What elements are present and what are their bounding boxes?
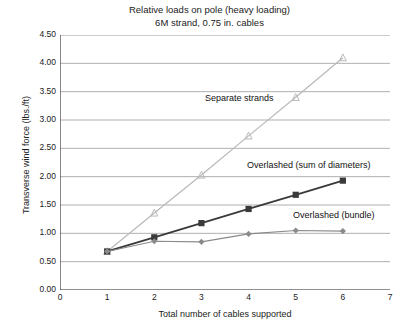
- annotation-separate-strands: Separate strands: [203, 93, 276, 103]
- x-tick-label: 6: [333, 292, 353, 302]
- chart-title: Relative loads on pole (heavy loading): [0, 4, 419, 17]
- x-tick-label: 5: [286, 292, 306, 302]
- data-point-marker: [293, 227, 299, 233]
- data-point-marker: [293, 192, 299, 198]
- y-tick-label: 3.00: [22, 114, 56, 124]
- data-point-marker: [245, 231, 251, 237]
- y-axis-ticks: 0.000.501.001.502.002.503.003.504.004.50: [18, 35, 56, 290]
- x-tick-label: 3: [191, 292, 211, 302]
- y-tick-label: 2.00: [22, 171, 56, 181]
- x-tick-label: 7: [380, 292, 400, 302]
- y-tick-label: 0.50: [22, 256, 56, 266]
- y-tick-label: 1.50: [22, 199, 56, 209]
- chart-container: Relative loads on pole (heavy loading) 6…: [0, 0, 419, 330]
- data-point-marker: [339, 54, 346, 61]
- y-tick-label: 4.00: [22, 57, 56, 67]
- chart-subtitle: 6M strand, 0.75 in. cables: [0, 17, 419, 30]
- annotation-overlashed-bundle: Overlashed (bundle): [291, 210, 377, 220]
- x-axis-label: Total number of cables supported: [55, 309, 395, 319]
- data-point-marker: [245, 206, 251, 212]
- annotation-overlashed-sum: Overlashed (sum of diameters): [245, 160, 373, 170]
- data-point-marker: [198, 239, 204, 245]
- y-tick-label: 4.50: [22, 29, 56, 39]
- data-point-marker: [198, 220, 204, 226]
- y-tick-label: 3.50: [22, 86, 56, 96]
- y-tick-label: 2.50: [22, 142, 56, 152]
- chart-title-block: Relative loads on pole (heavy loading) 6…: [0, 4, 419, 29]
- x-tick-label: 4: [239, 292, 259, 302]
- y-tick-label: 1.00: [22, 227, 56, 237]
- x-tick-label: 1: [97, 292, 117, 302]
- x-tick-label: 0: [50, 292, 70, 302]
- x-tick-label: 2: [144, 292, 164, 302]
- series-line: [107, 58, 343, 252]
- data-point-marker: [340, 178, 346, 184]
- x-axis-ticks: 01234567: [60, 292, 390, 308]
